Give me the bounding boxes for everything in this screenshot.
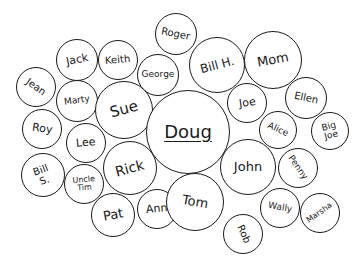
name-bubble-john: John bbox=[220, 139, 276, 195]
bubble-label: Doug bbox=[164, 123, 212, 142]
name-bubble-rob: Rob bbox=[223, 214, 263, 254]
bubble-label: Wally bbox=[267, 201, 292, 214]
name-bubble-bill-s: Bill S. bbox=[21, 153, 65, 197]
name-bubble-wally: Wally bbox=[260, 188, 300, 228]
name-bubble-jack: Jack bbox=[56, 39, 98, 81]
bubble-label: Joe bbox=[238, 96, 256, 110]
name-bubble-joe: Joe bbox=[227, 83, 267, 123]
name-bubble-big-joe: Big Joe bbox=[311, 112, 349, 150]
name-bubble-alice: Alice bbox=[259, 111, 297, 149]
bubble-label: Big Joe bbox=[321, 120, 340, 142]
bubble-label: George bbox=[142, 70, 175, 79]
name-bubble-lee: Lee bbox=[66, 123, 106, 163]
name-bubble-roger: Roger bbox=[155, 13, 197, 55]
bubble-label: Roy bbox=[31, 122, 53, 136]
bubble-label: Keith bbox=[105, 54, 131, 67]
name-bubble-ellen: Ellen bbox=[285, 77, 327, 119]
bubble-label: Marty bbox=[64, 95, 91, 108]
name-bubble-doug: Doug bbox=[146, 90, 230, 174]
name-bubble-pat: Pat bbox=[91, 193, 135, 237]
name-bubble-jean: Jean bbox=[16, 67, 56, 107]
bubble-label: Bill S. bbox=[32, 163, 53, 188]
bubble-label: Lee bbox=[76, 136, 96, 149]
bubble-label: Mom bbox=[256, 51, 290, 70]
bubble-label: Marsha bbox=[306, 201, 335, 225]
bubble-label: Ellen bbox=[293, 90, 319, 105]
bubble-label: Roger bbox=[161, 26, 192, 42]
bubble-label: Rob bbox=[234, 223, 252, 245]
name-bubble-sue: Sue bbox=[95, 81, 153, 139]
bubble-label: Ann bbox=[146, 202, 168, 215]
name-bubble-roy: Roy bbox=[22, 109, 62, 149]
name-bubble-rick: Rick bbox=[103, 141, 157, 195]
name-bubble-marsha: Marsha bbox=[300, 193, 340, 233]
name-bubble-tom: Tom bbox=[166, 173, 224, 231]
bubble-label: Penny bbox=[286, 154, 309, 182]
bubble-label: Alice bbox=[266, 121, 290, 139]
bubble-label: Jean bbox=[24, 77, 48, 98]
bubble-label: Uncle Tim bbox=[72, 175, 96, 194]
bubble-label: Pat bbox=[102, 207, 124, 224]
bubble-label: Rick bbox=[114, 157, 146, 179]
bubble-label: Tom bbox=[181, 193, 209, 211]
bubble-diagram: RogerJackKeithGeorgeBill H.MomJeanMartyS… bbox=[0, 0, 362, 263]
name-bubble-marty: Marty bbox=[56, 80, 98, 122]
bubble-label: Jack bbox=[65, 52, 89, 68]
bubble-label: Bill H. bbox=[199, 54, 236, 75]
bubble-label: Sue bbox=[108, 99, 139, 122]
bubble-label: John bbox=[234, 160, 262, 174]
name-bubble-penny: Penny bbox=[278, 148, 318, 188]
name-bubble-keith: Keith bbox=[98, 40, 138, 80]
